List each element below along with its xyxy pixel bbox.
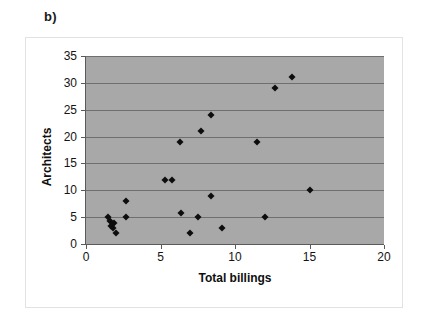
data-point bbox=[187, 230, 194, 237]
chart-frame: Total billings Architects 05101520253035… bbox=[25, 37, 403, 308]
data-point bbox=[176, 138, 183, 145]
data-point bbox=[123, 214, 130, 221]
x-tick-mark bbox=[161, 245, 162, 249]
y-tick-mark bbox=[81, 56, 85, 57]
x-tick-label: 15 bbox=[290, 250, 330, 264]
data-point bbox=[218, 224, 225, 231]
gridline-horizontal bbox=[86, 163, 384, 164]
y-tick-mark bbox=[81, 217, 85, 218]
x-tick-label: 0 bbox=[66, 250, 106, 264]
x-tick-mark bbox=[310, 245, 311, 249]
data-point bbox=[306, 187, 313, 194]
data-point bbox=[208, 112, 215, 119]
data-point bbox=[169, 176, 176, 183]
data-point bbox=[272, 85, 279, 92]
y-tick-mark bbox=[81, 110, 85, 111]
data-point bbox=[254, 138, 261, 145]
x-tick-label: 5 bbox=[141, 250, 181, 264]
y-axis-line bbox=[85, 56, 86, 245]
x-axis-title: Total billings bbox=[86, 271, 384, 285]
y-tick-label: 20 bbox=[37, 130, 77, 144]
y-tick-label: 30 bbox=[37, 76, 77, 90]
y-tick-label: 5 bbox=[37, 210, 77, 224]
data-point bbox=[178, 209, 185, 216]
data-point bbox=[194, 214, 201, 221]
panel-label: b) bbox=[44, 9, 57, 24]
gridline-horizontal bbox=[86, 217, 384, 218]
y-tick-mark bbox=[81, 137, 85, 138]
data-point bbox=[197, 128, 204, 135]
gridline-horizontal bbox=[86, 56, 384, 57]
data-point bbox=[112, 230, 119, 237]
gridline-horizontal bbox=[86, 110, 384, 111]
x-tick-label: 20 bbox=[364, 250, 404, 264]
data-point bbox=[208, 192, 215, 199]
y-tick-mark bbox=[81, 163, 85, 164]
y-tick-label: 10 bbox=[37, 183, 77, 197]
data-point bbox=[261, 214, 268, 221]
y-tick-label: 35 bbox=[37, 49, 77, 63]
x-tick-mark bbox=[235, 245, 236, 249]
y-tick-mark bbox=[81, 244, 85, 245]
gridline-horizontal bbox=[86, 137, 384, 138]
y-tick-mark bbox=[81, 83, 85, 84]
x-tick-mark bbox=[384, 245, 385, 249]
x-tick-label: 10 bbox=[215, 250, 255, 264]
x-tick-mark bbox=[86, 245, 87, 249]
gridline-horizontal bbox=[86, 83, 384, 84]
y-tick-label: 0 bbox=[37, 237, 77, 251]
y-tick-label: 25 bbox=[37, 103, 77, 117]
data-point bbox=[123, 197, 130, 204]
data-point bbox=[288, 74, 295, 81]
y-tick-label: 15 bbox=[37, 156, 77, 170]
y-tick-mark bbox=[81, 190, 85, 191]
plot-area bbox=[86, 56, 384, 244]
gridline-horizontal bbox=[86, 190, 384, 191]
